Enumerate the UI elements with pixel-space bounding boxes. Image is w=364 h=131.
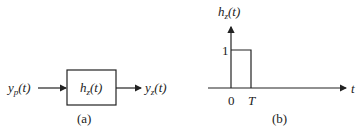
caption-a: (a) bbox=[77, 112, 91, 125]
tick-T-label: T bbox=[248, 94, 255, 107]
input-signal-label: yp(t) bbox=[8, 81, 31, 97]
caption-b: (b) bbox=[272, 112, 287, 125]
block-transfer-label: hz(t) bbox=[80, 81, 102, 97]
rect-pulse bbox=[231, 50, 251, 88]
t-axis-label: t bbox=[351, 82, 355, 95]
output-signal-label: yz(t) bbox=[145, 81, 167, 97]
pulse-height-label: 1 bbox=[222, 44, 229, 57]
diagram-canvas bbox=[0, 0, 364, 131]
y-axis-label: hz(t) bbox=[218, 5, 240, 21]
tick-zero-label: 0 bbox=[228, 94, 235, 107]
